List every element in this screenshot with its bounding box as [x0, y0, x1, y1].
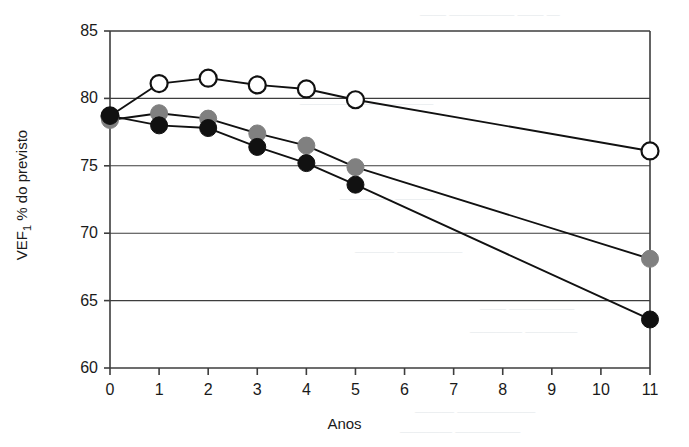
x-tick-label: 4: [302, 381, 311, 398]
data-point-open-circle-series: [249, 76, 266, 93]
y-axis-title: VEF1 % do previsto: [13, 110, 33, 280]
x-axis-title: Anos: [0, 415, 689, 432]
y-tick-label: 75: [80, 157, 98, 174]
data-point-open-circle-series: [642, 142, 659, 159]
y-axis-title-subscript: 1: [21, 225, 33, 231]
data-point-open-circle-series: [347, 91, 364, 108]
data-point-black-circle-series: [298, 155, 315, 172]
y-tick-label: 60: [80, 359, 98, 376]
plot-area: 01234567891011 606570758085: [0, 0, 689, 447]
series-line-open-circle-series: [110, 78, 650, 151]
y-axis-title-main: VEF: [13, 231, 30, 260]
x-tick-label: 5: [351, 381, 360, 398]
y-tick-label: 65: [80, 292, 98, 309]
data-point-open-circle-series: [298, 80, 315, 97]
data-point-black-circle-series: [642, 311, 659, 328]
y-tick-label: 80: [80, 89, 98, 106]
x-tick-label: 10: [592, 381, 610, 398]
data-point-gray-circle-series: [298, 137, 315, 154]
x-tick-label: 11: [642, 381, 659, 398]
axis-frame: [110, 31, 650, 368]
x-tick-label: 9: [547, 381, 556, 398]
series-line-gray-circle-series: [110, 113, 650, 259]
data-point-black-circle-series: [151, 117, 168, 134]
x-tick-label: 6: [400, 381, 409, 398]
x-tick-label: 1: [155, 381, 164, 398]
series-line-black-circle-series: [110, 116, 650, 320]
y-axis-ticks: 606570758085: [80, 22, 110, 376]
y-tick-label: 70: [80, 224, 98, 241]
y-tick-label: 85: [80, 22, 98, 39]
data-point-black-circle-series: [200, 120, 217, 137]
data-point-gray-circle-series: [347, 159, 364, 176]
data-point-gray-circle-series: [642, 250, 659, 267]
data-point-black-circle-series: [249, 138, 266, 155]
chart-figure: — —— ————— —— ———— —————— ——— ———— —————…: [0, 0, 689, 447]
x-tick-label: 0: [106, 381, 115, 398]
x-axis-ticks: 01234567891011: [106, 368, 659, 398]
gridlines: [110, 31, 650, 301]
data-point-open-circle-series: [151, 75, 168, 92]
x-tick-label: 8: [498, 381, 507, 398]
x-tick-label: 7: [449, 381, 458, 398]
data-series-layer: [102, 70, 659, 328]
data-point-black-circle-series: [347, 176, 364, 193]
data-point-black-circle-series: [102, 107, 119, 124]
x-tick-label: 2: [204, 381, 213, 398]
x-tick-label: 3: [253, 381, 262, 398]
data-point-open-circle-series: [200, 70, 217, 87]
y-axis-title-rest: % do previsto: [13, 130, 30, 225]
